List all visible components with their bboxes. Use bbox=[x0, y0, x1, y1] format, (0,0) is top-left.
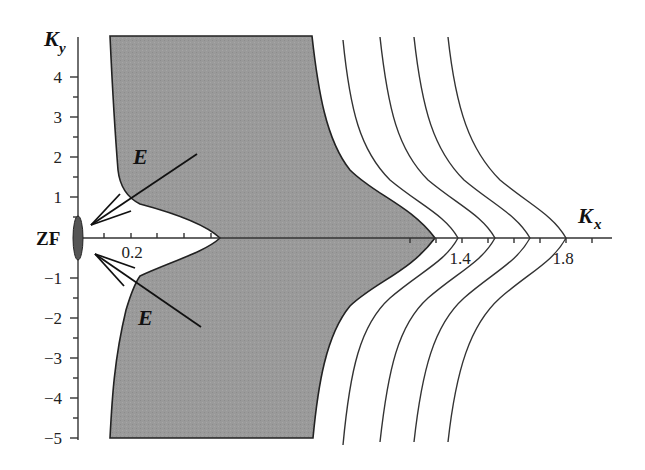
y-tick-neg3: −3 bbox=[44, 349, 62, 368]
y-tick-neg5: −5 bbox=[44, 429, 62, 448]
figure: 4 3 2 1 −1 −2 −3 −4 −5 K y 0.2 1.4 1.8 K… bbox=[0, 0, 645, 470]
svg-text:x: x bbox=[593, 216, 602, 232]
svg-text:K: K bbox=[577, 203, 594, 228]
y-axis-title: K y bbox=[43, 26, 66, 56]
region-label-upper: E bbox=[132, 144, 148, 169]
region-label-lower: E bbox=[137, 305, 153, 330]
x-tick-0-2: 0.2 bbox=[121, 243, 142, 262]
y-tick-1: 1 bbox=[54, 188, 63, 207]
contour-4 bbox=[448, 37, 566, 442]
y-tick-neg1: −1 bbox=[44, 269, 62, 288]
svg-text:y: y bbox=[57, 40, 66, 56]
y-tick-3: 3 bbox=[54, 108, 63, 127]
y-tick-labels: 4 3 2 1 −1 −2 −3 −4 −5 bbox=[44, 68, 63, 448]
zf-marker bbox=[73, 216, 83, 260]
y-tick-4: 4 bbox=[54, 68, 63, 87]
y-tick-neg4: −4 bbox=[44, 389, 63, 408]
y-tick-neg2: −2 bbox=[44, 309, 62, 328]
x-tick-1-4: 1.4 bbox=[449, 249, 471, 268]
x-tick-1-8: 1.8 bbox=[552, 249, 573, 268]
svg-text:K: K bbox=[43, 26, 60, 51]
y-tick-2: 2 bbox=[54, 148, 63, 167]
x-axis-title: K x bbox=[577, 203, 602, 232]
zf-label: ZF bbox=[36, 228, 60, 249]
shaded-region-e bbox=[110, 36, 435, 438]
